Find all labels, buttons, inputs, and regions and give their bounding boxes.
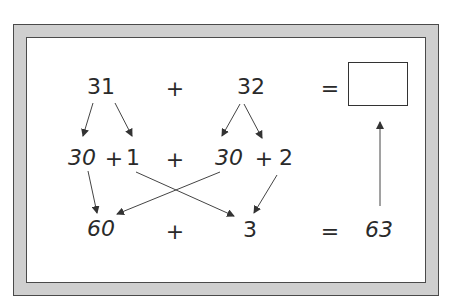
arrow-2-to-3 [254,175,277,213]
arrow-1-to-3-cross [136,172,234,216]
arrow-32-to-2 [244,104,262,138]
arrow-32-to-30 [222,104,240,136]
arrow-30-to-60 [88,171,97,213]
arrows-layer [0,0,476,303]
arrow-31-to-30 [83,103,93,136]
arrow-30-to-60-cross [117,172,220,214]
arrow-31-to-1 [115,103,132,136]
